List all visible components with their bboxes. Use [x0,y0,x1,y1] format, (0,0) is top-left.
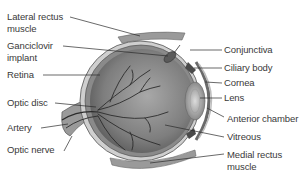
label-lateral-rectus-muscle: Lateral rectus muscle [7,11,63,35]
lens-shape [185,82,205,120]
label-conjunctiva: Conjunctiva [224,44,273,56]
label-optic-disc: Optic disc [7,97,48,109]
label-cornea: Cornea [224,77,255,89]
label-optic-nerve: Optic nerve [7,144,54,156]
label-ciliary-body: Ciliary body [224,62,272,74]
label-medial-rectus-muscle: Medial rectus muscle [227,149,282,173]
label-lens: Lens [224,92,244,104]
label-ganciclovir-implant: Ganciclovir implant [7,40,53,64]
vitreous-shape [90,49,194,153]
label-anterior-chamber: Anterior chamber [227,113,298,125]
label-retina: Retina [7,69,34,81]
label-artery: Artery [7,122,32,134]
lateral-rectus-muscle-shape [118,32,185,43]
label-vitreous: Vitreous [227,131,261,143]
